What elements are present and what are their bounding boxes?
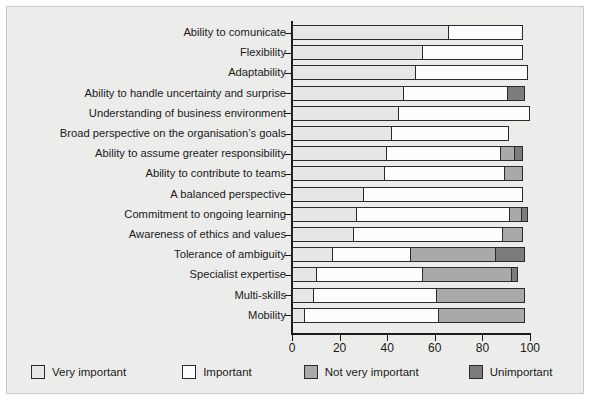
- legend-swatch-very-important: [31, 365, 45, 379]
- stacked-bar[interactable]: [292, 207, 528, 222]
- bar-segment: [293, 87, 404, 100]
- bar-segment: [508, 87, 525, 100]
- x-tick-label: 60: [415, 341, 455, 355]
- stacked-bar[interactable]: [292, 187, 523, 202]
- stacked-bar[interactable]: [292, 65, 528, 80]
- bar-segment: [399, 107, 529, 120]
- x-tick-label: 80: [462, 341, 502, 355]
- bar-segment: [293, 66, 416, 79]
- x-axis-line: [291, 333, 531, 335]
- category-label: Ability to handle uncertainty and surpri…: [85, 88, 287, 99]
- legend-item-very-important[interactable]: Very important: [31, 365, 126, 379]
- category-label: Broad perspective on the organisation’s …: [60, 128, 286, 139]
- legend-label-not-very-important: Not very important: [325, 366, 419, 378]
- bar-segment: [293, 46, 423, 59]
- bar-segment: [411, 248, 496, 261]
- y-tick: [285, 154, 292, 155]
- stacked-bar[interactable]: [292, 247, 525, 262]
- y-tick: [285, 134, 292, 135]
- legend-label-important: Important: [203, 366, 252, 378]
- y-tick: [285, 174, 292, 175]
- chart-legend: Very important Important Not very import…: [15, 359, 575, 385]
- bar-segment: [293, 208, 357, 221]
- y-tick: [285, 194, 292, 195]
- bar-segment: [293, 188, 364, 201]
- category-label: Ability to assume greater responsibility: [95, 148, 286, 159]
- y-tick: [285, 33, 292, 34]
- category-label: Mobility: [248, 310, 286, 321]
- stacked-bar[interactable]: [292, 308, 525, 323]
- category-label: Commitment to ongoing learning: [124, 209, 286, 220]
- y-tick: [285, 295, 292, 296]
- legend-label-very-important: Very important: [52, 366, 126, 378]
- bar-segment: [496, 248, 524, 261]
- stacked-bar[interactable]: [292, 146, 523, 161]
- bar-segment: [293, 107, 399, 120]
- stacked-bar[interactable]: [292, 227, 523, 242]
- stacked-bar[interactable]: [292, 106, 530, 121]
- bar-segment: [505, 167, 522, 180]
- legend-item-not-very-important[interactable]: Not very important: [304, 365, 419, 379]
- stacked-bar[interactable]: [292, 288, 525, 303]
- bar-segment: [354, 228, 503, 241]
- bar-segment: [439, 309, 524, 322]
- x-tick-label: 100: [510, 341, 550, 355]
- bar-segment: [293, 248, 333, 261]
- y-tick: [285, 275, 292, 276]
- stacked-bar[interactable]: [292, 86, 525, 101]
- y-tick: [285, 255, 292, 256]
- bar-segment: [293, 147, 387, 160]
- bar-segment: [293, 228, 354, 241]
- category-label: Ability to comunicate: [183, 27, 286, 38]
- bar-segment: [510, 208, 522, 221]
- category-label: A balanced perspective: [170, 189, 286, 200]
- category-label: Multi-skills: [234, 290, 286, 301]
- legend-swatch-unimportant: [469, 365, 483, 379]
- stacked-bar[interactable]: [292, 166, 523, 181]
- bar-segment: [305, 309, 439, 322]
- category-label: Flexibility: [240, 47, 286, 58]
- bar-segment: [404, 87, 508, 100]
- stacked-bar[interactable]: [292, 45, 523, 60]
- category-label: Adaptability: [228, 67, 286, 78]
- legend-label-unimportant: Unimportant: [490, 366, 553, 378]
- bar-segment: [387, 147, 500, 160]
- bar-segment: [357, 208, 510, 221]
- legend-item-unimportant[interactable]: Unimportant: [469, 365, 553, 379]
- bar-segment: [437, 289, 524, 302]
- bar-segment: [293, 268, 317, 281]
- category-label: Awareness of ethics and values: [129, 229, 286, 240]
- bar-segment: [317, 268, 423, 281]
- y-tick: [285, 113, 292, 114]
- bar-segment: [385, 167, 505, 180]
- stacked-bar[interactable]: [292, 126, 509, 141]
- category-label: Tolerance of ambiguity: [174, 249, 286, 260]
- category-label: Ability to contribute to teams: [145, 168, 286, 179]
- category-label: Specialist expertise: [190, 269, 286, 280]
- bar-segment: [364, 188, 522, 201]
- y-tick: [285, 235, 292, 236]
- stacked-bar[interactable]: [292, 25, 523, 40]
- bar-segment: [423, 268, 513, 281]
- bar-segment: [314, 289, 437, 302]
- x-tick-label: 0: [272, 341, 312, 355]
- legend-swatch-not-very-important: [304, 365, 318, 379]
- y-tick: [285, 73, 292, 74]
- legend-item-important[interactable]: Important: [182, 365, 252, 379]
- bar-segment: [522, 208, 527, 221]
- bar-segment: [293, 289, 314, 302]
- stacked-bar[interactable]: [292, 267, 518, 282]
- bar-segment: [293, 167, 385, 180]
- x-tick-label: 40: [367, 341, 407, 355]
- legend-swatch-important: [182, 365, 196, 379]
- bar-segment: [392, 127, 508, 140]
- x-tick-label: 20: [320, 341, 360, 355]
- bar-segment: [293, 127, 392, 140]
- bar-segment: [515, 147, 522, 160]
- bar-segment: [416, 66, 527, 79]
- bar-segment: [501, 147, 515, 160]
- bar-segment: [293, 309, 305, 322]
- y-tick: [285, 315, 292, 316]
- category-label: Understanding of business environment: [89, 108, 286, 119]
- y-tick: [285, 53, 292, 54]
